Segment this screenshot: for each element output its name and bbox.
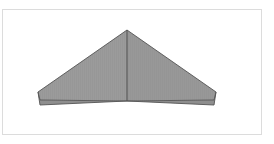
model-viewport[interactable]	[0, 0, 274, 144]
chevron-roof-solid[interactable]	[0, 0, 274, 144]
mesh-striation-overlay	[0, 0, 274, 144]
